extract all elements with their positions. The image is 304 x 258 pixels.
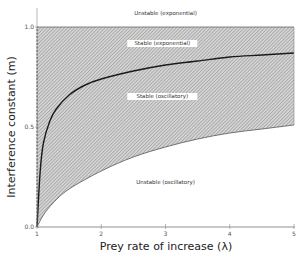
x-tick-label: 2 (99, 230, 103, 237)
region-label: Unstable (oscillatory) (136, 179, 195, 186)
y-tick-label: 0.0 (24, 223, 34, 230)
y-tick-label: 1.0 (24, 23, 34, 30)
chart: 123450.00.51.0 Unstable (exponential)Sta… (0, 0, 304, 258)
y-axis-title: Interference constant (m) (5, 56, 18, 197)
region-label: Stable (exponential) (134, 40, 190, 47)
hatched-area (37, 27, 294, 227)
stable-region-hatch (37, 27, 294, 227)
x-tick-label: 4 (228, 230, 232, 237)
region-label: Stable (oscillatory) (136, 93, 188, 100)
x-tick-label: 5 (292, 230, 296, 237)
y-tick-label: 0.5 (24, 123, 34, 130)
x-tick-label: 1 (35, 230, 39, 237)
x-axis-title: Prey rate of increase (λ) (100, 240, 232, 253)
x-tick-label: 3 (164, 230, 168, 237)
region-label: Unstable (exponential) (134, 10, 197, 17)
